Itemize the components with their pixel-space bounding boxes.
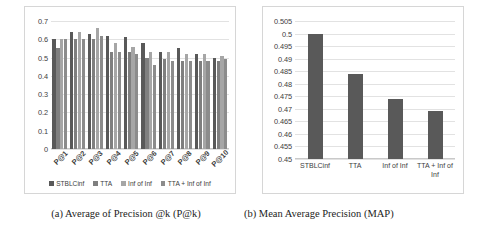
bar [206,61,209,149]
bar [70,32,73,149]
bar-group [335,21,375,159]
bar [56,48,59,149]
bar [348,74,363,159]
bar [149,52,152,149]
bar-group [122,21,140,149]
x-tick-label: P@4 [105,149,123,167]
bar [159,52,162,149]
x-tick-label: P@5 [123,149,141,167]
y-tick-label: 0.4 [38,71,48,80]
bar [74,39,77,149]
chart-b-plot-box: 0.450.4550.460.4650.470.4750.480.4850.49… [262,6,464,194]
bar [100,36,103,149]
legend-item: Inf of Inf [121,180,152,187]
y-tick-label: 0.47 [278,104,292,113]
bar [185,54,188,149]
bar [92,39,95,149]
x-tick-label: P@10 [210,148,231,169]
y-tick-label: 0.505 [274,17,292,26]
chart-a-legend: STBLCinfTTAInf of InfTTA + Inf of Inf [25,180,235,187]
y-tick-label: 0.6 [38,35,48,44]
legend-label: TTA + Inf of Inf [168,180,211,187]
y-tick-label: 0.45 [278,155,292,164]
x-label-cell: P@8 [176,149,194,183]
bar [177,48,180,149]
bar [82,39,85,149]
bar [118,52,121,149]
bar [78,32,81,149]
bar-group [415,21,455,159]
y-tick-label: 0.48 [278,79,292,88]
x-label-cell: P@4 [104,149,122,183]
bar-group [295,21,335,159]
y-tick-label: 0.485 [274,67,292,76]
bar [64,39,67,149]
bar [52,39,55,149]
bar [110,52,113,149]
x-tick-label: P@6 [141,149,159,167]
bar [60,39,63,149]
x-tick-label: P@8 [176,149,194,167]
bar [428,111,443,159]
x-tick-label: P@9 [194,149,212,167]
bar [167,52,170,149]
bar [388,99,403,159]
bar-group [211,21,229,149]
bar [106,36,109,149]
x-label-cell: P@2 [69,149,87,183]
y-tick-label: 0.5 [38,53,48,62]
bar [195,54,198,149]
bar [213,58,216,149]
bar [141,43,144,149]
bar [308,34,323,159]
bar-group [375,21,415,159]
panel-a: 00.10.20.30.40.50.60.7 P@1P@2P@3P@4P@5P@… [0,0,244,196]
bar-group [69,21,87,149]
figure-container: 00.10.20.30.40.50.60.7 P@1P@2P@3P@4P@5P@… [0,0,479,230]
chart-b-plot-area: 0.450.4550.460.4650.470.4750.480.4850.49… [295,21,455,159]
y-tick-label: 0.5 [282,29,292,38]
legend-item: STBLCinf [49,180,84,187]
x-tick-label: TTA + Inf of Inf [415,162,455,179]
bar [224,59,227,149]
x-label-cell: P@6 [140,149,158,183]
bar-group [104,21,122,149]
bar [220,56,223,149]
bar [171,61,174,149]
x-label-cell: P@5 [122,149,140,183]
x-label-cell: P@1 [51,149,69,183]
bar [181,61,184,149]
x-label-cell: P@7 [158,149,176,183]
bar [114,43,117,149]
chart-a-bars [51,21,229,149]
bar [131,47,134,149]
x-tick-label: TTA [335,162,375,179]
bar-group [158,21,176,149]
legend-swatch [121,181,125,185]
bar [96,28,99,149]
x-tick-label: P@1 [52,149,70,167]
chart-a-plot-box: 00.10.20.30.40.50.60.7 P@1P@2P@3P@4P@5P@… [24,6,236,194]
y-tick-label: 0.46 [278,129,292,138]
x-tick-label: P@7 [158,149,176,167]
chart-b-x-axis-labels: STBLCinfTTAInf of InfTTA + Inf of Inf [295,159,455,179]
bar [199,61,202,149]
y-tick-label: 0.7 [38,17,48,26]
bar [145,58,148,149]
y-tick-label: 0.465 [274,117,292,126]
caption-b: (b) Mean Average Precision (MAP) [244,208,479,219]
x-tick-label: P@2 [69,149,87,167]
figure-captions: (a) Average of Precision @k (P@k) (b) Me… [0,196,479,230]
bar [153,65,156,149]
bar [124,37,127,149]
y-tick-label: 0.1 [38,126,48,135]
x-label-cell: P@3 [87,149,105,183]
bar-group [193,21,211,149]
y-tick-label: 0.495 [274,42,292,51]
chart-a-x-axis-labels: P@1P@2P@3P@4P@5P@6P@7P@8P@9P@10 [51,149,229,183]
x-tick-label: STBLCinf [295,162,335,179]
x-tick-label: Inf of Inf [375,162,415,179]
bar [135,54,138,149]
x-label-cell: P@9 [193,149,211,183]
legend-label: TTA [100,180,112,187]
